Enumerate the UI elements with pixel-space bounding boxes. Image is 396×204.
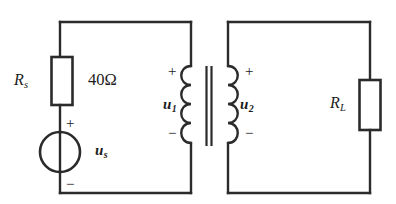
source-resistor-label: Rs [14, 72, 28, 90]
source-resistor-symbol [52, 57, 73, 105]
transformer-core [207, 66, 212, 146]
source-minus-sign: − [66, 177, 74, 192]
primary-minus-sign: − [168, 126, 176, 141]
transformer-secondary-winding [228, 66, 238, 143]
source-voltage-subscript: s [103, 149, 107, 160]
source-resistor-value-label: 40Ω [88, 72, 117, 89]
circuit-diagram: Rs 40Ω RL us u1 u2 + − + − + − [0, 0, 396, 204]
secondary-voltage-subscript: 2 [248, 103, 253, 114]
load-resistor-symbol [360, 80, 381, 130]
primary-voltage-subscript: 1 [171, 103, 176, 114]
primary-voltage-label: u1 [163, 97, 177, 114]
load-resistor-subscript: L [340, 102, 346, 113]
transformer-primary-winding [181, 66, 191, 143]
secondary-voltage-label: u2 [240, 97, 254, 114]
load-resistor-label: RL [330, 95, 346, 113]
source-resistor-subscript: s [24, 79, 28, 90]
load-resistor-symbol-text: R [330, 94, 340, 111]
source-resistor-symbol-text: R [14, 71, 24, 88]
secondary-plus-sign: + [245, 64, 253, 79]
source-plus-sign: + [66, 116, 74, 131]
primary-plus-sign: + [168, 64, 176, 79]
source-voltage-label: us [95, 143, 108, 160]
secondary-minus-sign: − [245, 126, 253, 141]
